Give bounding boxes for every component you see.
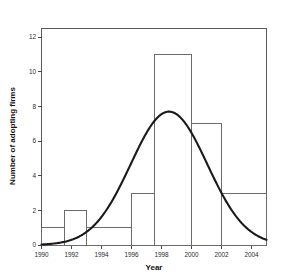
x-tick-label: 1998 [154,251,169,258]
chart-background [0,0,295,275]
y-axis-title: Number of adopting firms [8,87,17,185]
y-tick-label: 10 [29,68,37,75]
x-tick-label: 1996 [124,251,139,258]
chart-figure: 024681012 199019921994199619982000200220… [0,0,295,275]
x-tick-label: 1994 [94,251,109,258]
y-tick-label: 2 [32,207,36,214]
y-tick-label: 0 [32,241,36,248]
x-tick-label: 2004 [244,251,259,258]
x-tick-label: 2000 [184,251,199,258]
x-tick-label: 2002 [214,251,229,258]
y-tick-label: 4 [32,172,36,179]
x-tick-label: 1990 [34,251,49,258]
x-axis-title: Year [146,263,163,272]
y-tick-label: 6 [32,137,36,144]
histogram-chart: 024681012 199019921994199619982000200220… [0,0,295,275]
x-tick-label: 1992 [64,251,79,258]
y-tick-label: 8 [32,103,36,110]
y-tick-label: 12 [29,33,37,40]
